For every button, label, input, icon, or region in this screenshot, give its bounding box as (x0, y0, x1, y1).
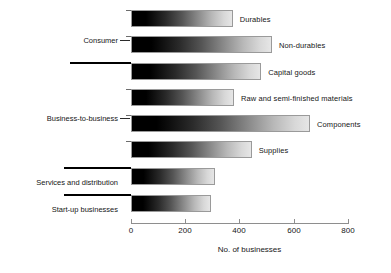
group-separator (64, 167, 131, 169)
x-axis-tick-label: 0 (129, 226, 133, 235)
x-axis-tick (294, 219, 295, 224)
bar-services-and-distribution (131, 168, 215, 185)
x-axis-tick-label: 600 (287, 226, 300, 235)
plot-area: Durables Non-durables Capital goods Raw … (131, 10, 348, 222)
row-tick (126, 89, 131, 90)
x-axis-tick (131, 219, 132, 224)
group-label-services-and-distribution: Services and distribution (10, 178, 118, 187)
bar-label-durables: Durables (240, 14, 271, 23)
bar-label-components: Components (317, 119, 361, 128)
bar-supplies (131, 141, 252, 158)
bar-capital-goods (131, 63, 261, 80)
row-tick (126, 141, 131, 142)
x-axis-title: No. of businesses (218, 245, 282, 254)
x-axis-tick-label: 800 (341, 226, 354, 235)
bar-chart: Durables Non-durables Capital goods Raw … (0, 0, 391, 273)
bar-label-supplies: Supplies (259, 145, 289, 154)
x-axis-tick (348, 219, 349, 224)
group-label-consumer: Consumer (40, 36, 118, 45)
bar-label-capital-goods: Capital goods (268, 67, 315, 76)
bar-raw-and-semi-finished-materials (131, 89, 234, 106)
bar-start-up-businesses (131, 195, 211, 212)
x-axis-tick (239, 219, 240, 224)
x-axis-tick (185, 219, 186, 224)
row-tick (126, 115, 131, 116)
group-separator (70, 62, 131, 64)
row-tick (126, 10, 131, 11)
x-axis-title-wrap: No. of businesses (0, 245, 391, 254)
bar-label-raw-and-semi-finished-materials: Raw and semi-finished materials (241, 93, 352, 102)
bar-non-durables (131, 36, 272, 53)
group-tick-consumer (120, 40, 130, 41)
group-tick-business-to-business (120, 118, 130, 119)
bar-durables (131, 10, 233, 27)
x-axis-tick-label: 400 (232, 226, 245, 235)
bar-components (131, 115, 310, 132)
x-axis-tick-label: 200 (178, 226, 191, 235)
group-label-business-to-business: Business-to-business (12, 114, 118, 123)
row-tick (126, 36, 131, 37)
group-label-start-up-businesses: Start-up businesses (22, 205, 118, 214)
group-separator (64, 194, 131, 196)
bar-label-non-durables: Non-durables (279, 40, 325, 49)
